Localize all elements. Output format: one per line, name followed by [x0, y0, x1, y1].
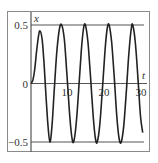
x-tick-label: 20: [99, 86, 111, 98]
y-axis-label: x: [33, 12, 39, 24]
y-tick-label: 0.5: [14, 19, 28, 31]
line-chart: 1020300.50−0.5 t x: [0, 0, 158, 163]
y-tick-label: 0: [23, 78, 29, 90]
x-axis-label: t: [142, 69, 146, 81]
y-tick-label: −0.5: [8, 136, 28, 148]
x-tick-label: 30: [136, 86, 148, 98]
